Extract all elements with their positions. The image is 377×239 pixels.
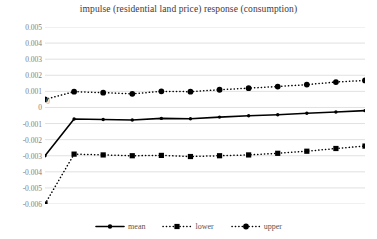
series-line xyxy=(45,111,365,156)
data-point xyxy=(129,91,135,97)
data-point xyxy=(100,90,106,96)
legend-key-lower xyxy=(162,222,192,231)
data-point xyxy=(160,117,163,120)
data-point xyxy=(276,113,279,116)
data-point xyxy=(158,88,164,94)
legend-key-mean xyxy=(95,222,125,231)
legend-key-upper xyxy=(231,222,261,231)
series-mean xyxy=(45,109,365,157)
series-layer xyxy=(45,78,365,204)
data-point xyxy=(333,79,339,85)
legend-item-lower[interactable]: lower xyxy=(162,222,213,231)
plot-area: 0 xyxy=(45,27,365,204)
data-point xyxy=(334,110,337,113)
y-tick-label: -0.005 xyxy=(23,183,42,192)
y-tick-label: -0.001 xyxy=(23,119,42,128)
series-line xyxy=(45,80,365,99)
y-tick-label: -0.002 xyxy=(23,135,42,144)
y-tick-label: -0.004 xyxy=(23,167,42,176)
data-point xyxy=(189,117,192,120)
data-point xyxy=(362,78,365,84)
legend-label: upper xyxy=(264,223,282,231)
data-point xyxy=(101,152,106,157)
data-point xyxy=(71,89,77,95)
origin-tick-label: 0 xyxy=(46,97,50,106)
data-point xyxy=(71,152,76,157)
data-point xyxy=(305,112,308,115)
data-point xyxy=(101,118,104,121)
impulse-response-chart: impulse (residential land price) respons… xyxy=(0,0,377,239)
plot-svg xyxy=(45,27,365,204)
data-point xyxy=(304,149,309,154)
data-point xyxy=(217,153,222,158)
series-upper xyxy=(45,78,365,103)
data-point xyxy=(131,118,134,121)
legend-item-upper[interactable]: upper xyxy=(231,222,282,231)
data-point xyxy=(45,201,48,204)
data-point xyxy=(188,154,193,159)
data-point xyxy=(130,153,135,158)
series-lower xyxy=(45,143,365,204)
data-point xyxy=(304,82,310,88)
legend-item-mean[interactable]: mean xyxy=(95,222,145,231)
gridlines xyxy=(45,27,365,204)
y-tick-label: 0.002 xyxy=(25,71,42,80)
data-point xyxy=(246,85,252,91)
data-point xyxy=(362,143,365,148)
data-point xyxy=(188,89,194,95)
series-line xyxy=(45,146,365,204)
chart-legend: meanlowerupper xyxy=(0,222,377,231)
data-point xyxy=(246,152,251,157)
data-point xyxy=(247,114,250,117)
data-point xyxy=(217,87,223,93)
data-point xyxy=(72,117,75,120)
data-point xyxy=(159,153,164,158)
y-tick-label: 0.001 xyxy=(25,87,42,96)
y-tick-label: 0.004 xyxy=(25,39,42,48)
data-point xyxy=(218,115,221,118)
y-axis-tick-labels: 0.0050.0040.0030.0020.0010-0.001-0.002-0… xyxy=(0,27,42,204)
chart-title: impulse (residential land price) respons… xyxy=(0,4,377,14)
y-tick-label: 0 xyxy=(38,103,42,112)
y-tick-label: -0.006 xyxy=(23,200,42,209)
data-point xyxy=(275,84,281,90)
data-point xyxy=(275,151,280,156)
y-tick-label: 0.003 xyxy=(25,55,42,64)
data-point xyxy=(363,109,365,112)
data-point xyxy=(333,146,338,151)
y-tick-label: -0.003 xyxy=(23,151,42,160)
y-tick-label: 0.005 xyxy=(25,23,42,32)
legend-label: lower xyxy=(195,223,213,231)
legend-label: mean xyxy=(128,223,145,231)
